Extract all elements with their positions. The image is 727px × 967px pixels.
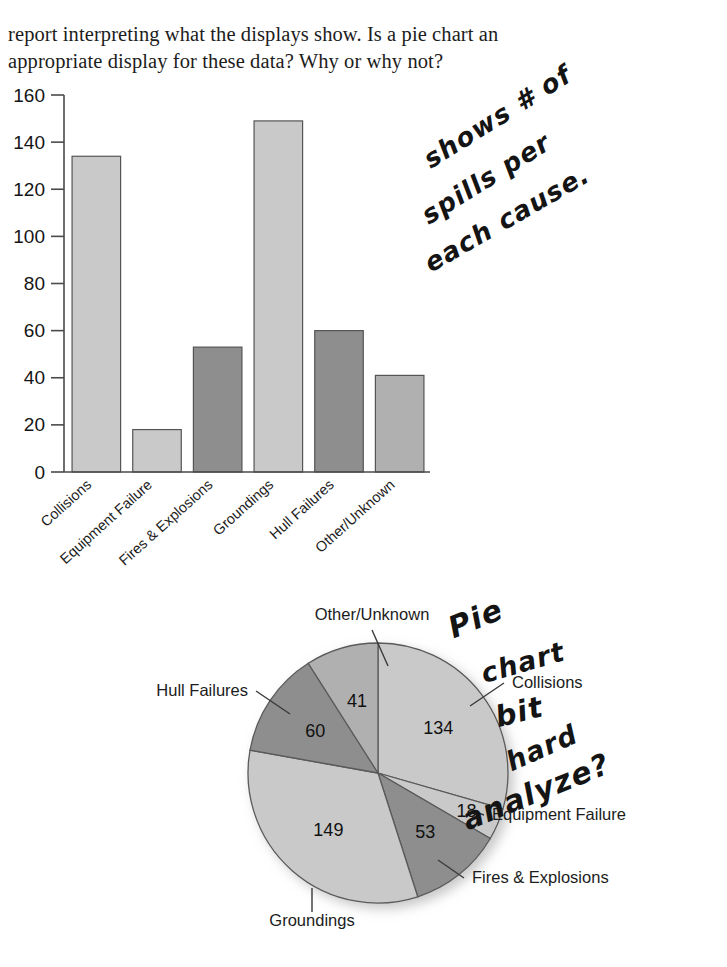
bar-chart-bar (315, 331, 364, 472)
pie-chart-category-label: Groundings (269, 911, 354, 929)
svg-text:Collisions: Collisions (38, 476, 95, 529)
pie-chart-svg: 13418531496041 CollisionsEquipment Failu… (140, 588, 700, 967)
question-text: report interpreting what the displays sh… (8, 21, 568, 75)
bar-chart-figure: 020406080100120140160 CollisionsEquipmen… (0, 78, 470, 568)
pie-chart-slice-value: 53 (415, 822, 435, 842)
pie-chart-category-label: Other/Unknown (315, 605, 430, 623)
bar-chart-bar (375, 375, 424, 472)
pie-chart-category-label: Collisions (512, 673, 583, 691)
bar-chart-y-tick-label: 40 (24, 367, 45, 388)
bar-chart-y-tick-label: 60 (24, 320, 45, 341)
bar-chart-y-tick-label: 0 (34, 462, 45, 483)
pie-chart-category-label: Fires & Explosions (472, 868, 609, 886)
pie-chart-figure: 13418531496041 CollisionsEquipment Failu… (140, 588, 700, 967)
pie-chart-category-label: Equipment Failure (492, 805, 626, 823)
bar-chart-y-tick-label: 160 (13, 85, 45, 106)
bar-chart-y-tick-label: 20 (24, 414, 45, 435)
bar-chart-svg: 020406080100120140160 CollisionsEquipmen… (0, 78, 470, 568)
handwritten-note-bar-chart: shows # of spills per each cause. (432, 88, 722, 238)
pie-chart-category-label: Hull Failures (156, 681, 248, 699)
bar-chart-y-axis: 020406080100120140160 (13, 85, 64, 483)
bar-chart-bar (254, 121, 303, 472)
bar-chart-y-tick-label: 80 (24, 273, 45, 294)
bar-chart-bars (72, 121, 424, 472)
bar-chart-bar (193, 347, 242, 472)
bar-chart-y-tick-label: 100 (13, 226, 45, 247)
bar-chart-bar (133, 430, 182, 472)
pie-chart-slice-value: 149 (313, 820, 343, 840)
pie-chart-slice-value: 60 (305, 721, 325, 741)
bar-chart-y-tick-label: 140 (13, 132, 45, 153)
bar-chart-y-tick-label: 120 (13, 179, 45, 200)
bar-chart-category-label: Collisions (38, 476, 95, 529)
pie-chart-slice-value: 41 (347, 691, 367, 711)
pie-chart-slice-value: 134 (423, 718, 453, 738)
bar-chart-bar (72, 156, 121, 472)
pie-chart-slices (248, 643, 508, 903)
bar-chart-category-labels: CollisionsEquipment FailureFires & Explo… (38, 476, 398, 568)
